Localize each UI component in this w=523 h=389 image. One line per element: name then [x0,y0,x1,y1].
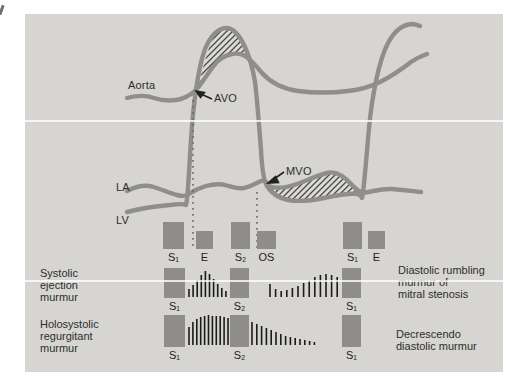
sound-block [163,222,184,249]
figure-canvas: Aorta LA LV AVO MVO Systolic ejection mu… [0,0,523,389]
sound-label: S₁ [169,349,180,361]
aorta-label: Aorta [128,79,155,91]
decrescendo-caption-line1: Decrescendo [396,328,461,340]
diastolic-rumbling-mitral-stenosis [270,274,337,297]
sound-label: S₂ [234,349,246,361]
scanline-artifact-bottom [0,280,523,282]
sound-block [368,231,385,249]
sound-label: OS [259,251,275,263]
holosystolic-caption-line2: regurgitant [40,330,93,342]
decrescendo-diastolic [252,322,314,345]
sound-label: S₂ [234,300,246,312]
holosystolic-caption-line3: murmur [40,342,78,354]
lv-label: LV [116,214,129,226]
sound-block [342,315,361,347]
sound-block [164,268,185,298]
systolic-ejection-caption-line3: murmur [40,291,78,303]
diastolic-rumbling-caption-line1: Diastolic rumbling [398,264,485,276]
sound-label: S₁ [169,300,180,312]
sound-block [164,315,185,347]
avo-label: AVO [214,92,237,104]
la-label: LA [116,181,130,193]
sound-label: E [373,251,380,263]
sound-block [343,222,362,249]
holosystolic-caption-line1: Holosystolic [40,318,99,330]
decrescendo-caption-line2: diastolic murmur [396,340,477,352]
sound-label: S₁ [347,251,358,263]
murmur-intensity-lines [189,271,337,345]
systolic-ejection-crescendo-decrescendo [189,271,226,297]
sound-label: S₁ [346,349,357,361]
holosystolic-plateau [189,315,228,345]
sound-block [342,268,361,298]
diastolic-rumbling-caption-line3: mitral stenosis [398,288,468,300]
sound-label: S₁ [346,300,357,312]
diastolic-rumbling-caption-line2: murmur of [398,276,448,288]
sound-label: S₂ [235,251,247,263]
scanline-artifact-top [0,120,523,122]
systolic-ejection-caption-line1: Systolic [40,267,78,279]
sound-label: S₁ [168,251,179,263]
sound-block [230,268,249,298]
sound-block [230,315,249,347]
lv-pressure-curve [127,24,420,212]
sound-label: E [201,251,208,263]
sound-block [231,222,250,249]
sound-block [257,231,276,249]
sound-block [196,231,213,249]
mvo-label: MVO [286,165,312,177]
